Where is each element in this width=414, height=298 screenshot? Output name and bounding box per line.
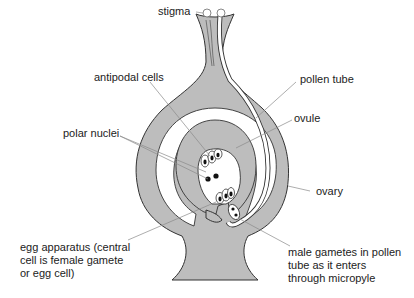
label-antipodal-cells: antipodal cells: [94, 71, 164, 83]
label-ovary: ovary: [316, 185, 343, 197]
male-gamete: [231, 207, 234, 210]
polar-nucleus: [213, 173, 218, 178]
antipodal-nucleus: [216, 153, 219, 157]
leader-ovary: [288, 186, 310, 191]
label-polar-nuclei: polar nuclei: [63, 127, 119, 139]
label-male-gametes: male gametes in pollen tube as it enters…: [288, 246, 404, 284]
stigma-lobe-right: [217, 9, 225, 17]
egg-apparatus-nucleus: [229, 192, 232, 197]
carpel-diagram: stigma antipodal cells pollen tube ovule…: [0, 0, 414, 298]
label-ovule: ovule: [294, 112, 320, 124]
leader-pollen-tube: [256, 82, 296, 118]
label-egg-apparatus: egg apparatus (central cell is female ga…: [20, 241, 133, 279]
label-pollen-tube: pollen tube: [300, 73, 354, 85]
male-gamete: [234, 213, 237, 216]
stigma-lobe-left: [203, 9, 211, 17]
label-stigma: stigma: [158, 5, 191, 17]
egg-apparatus-nucleus: [224, 194, 227, 199]
egg-apparatus-nucleus: [218, 197, 221, 202]
antipodal-nucleus: [210, 156, 213, 161]
leader-stigma: [196, 12, 203, 13]
antipodal-nucleus: [203, 160, 206, 165]
